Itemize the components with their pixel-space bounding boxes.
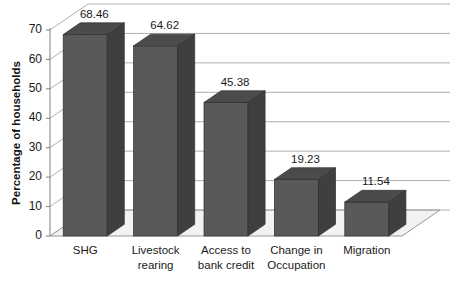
y-tick-label: 70 <box>29 22 43 36</box>
bar-side-face <box>107 23 124 236</box>
x-category-label: Change in <box>270 244 322 256</box>
bar-value-label: 45.38 <box>221 76 250 88</box>
chart-canvas: 010203040506070 68.4664.6245.3819.2311.5… <box>0 0 460 287</box>
bar-value-label: 64.62 <box>150 19 179 31</box>
x-category-label: bank credit <box>198 259 255 271</box>
bar-column <box>274 168 335 236</box>
bar-side-face <box>248 91 265 236</box>
y-tick-label: 10 <box>29 199 43 213</box>
bar-column <box>345 190 406 236</box>
bar-value-label: 19.23 <box>291 153 320 165</box>
bar-front-face <box>274 179 318 236</box>
bar-front-face <box>134 46 178 236</box>
x-category-label: Access to <box>201 244 251 256</box>
bar-value-label: 11.54 <box>362 175 391 187</box>
bar-column <box>63 23 124 236</box>
y-tick-label: 60 <box>29 52 43 66</box>
x-category-label: Livestock <box>132 244 180 256</box>
y-axis-title: Percentage of households <box>10 61 22 205</box>
bar-side-face <box>178 34 195 236</box>
x-category-label: rearing <box>138 259 174 271</box>
y-tick-label: 40 <box>29 110 43 124</box>
bar-front-face <box>345 202 389 236</box>
bar-chart: 010203040506070 68.4664.6245.3819.2311.5… <box>0 0 460 287</box>
x-category-label: SHG <box>73 244 98 256</box>
y-tick-label: 20 <box>29 169 43 183</box>
y-tick-label: 30 <box>29 140 43 154</box>
bar-column <box>204 91 265 236</box>
bar-front-face <box>63 35 107 236</box>
bar-front-face <box>204 102 248 236</box>
x-category-label: Occupation <box>267 259 325 271</box>
x-category-label: Migration <box>343 244 390 256</box>
y-tick-label: 50 <box>29 81 43 95</box>
bar-column <box>134 34 195 236</box>
y-tick-label: 0 <box>35 228 42 242</box>
bar-value-label: 68.46 <box>80 8 109 20</box>
